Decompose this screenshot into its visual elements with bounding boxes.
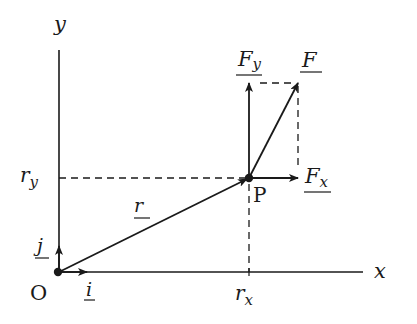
x-axis-label: x bbox=[374, 259, 386, 283]
fx-label: Fx bbox=[304, 164, 329, 191]
j-label: j bbox=[33, 234, 43, 256]
point-p bbox=[245, 174, 253, 182]
ry-label: ry bbox=[20, 163, 39, 191]
vector-diagram: y x O j i r P ry rx F Fy Fx bbox=[0, 0, 417, 324]
point-p-label: P bbox=[253, 183, 266, 207]
origin-label: O bbox=[30, 281, 47, 305]
force-vector-f bbox=[249, 83, 298, 178]
i-label: i bbox=[86, 278, 92, 300]
origin-point bbox=[54, 268, 62, 276]
f-label: F bbox=[301, 48, 318, 72]
r-label: r bbox=[134, 194, 145, 216]
fy-label: Fy bbox=[237, 47, 262, 73]
rx-label: rx bbox=[235, 281, 254, 309]
position-vector-r bbox=[59, 179, 247, 272]
y-axis-label: y bbox=[53, 12, 67, 36]
